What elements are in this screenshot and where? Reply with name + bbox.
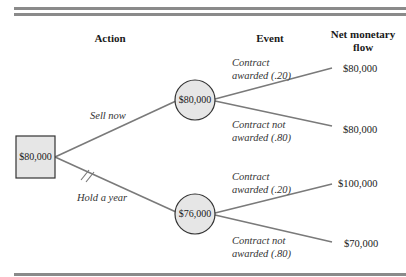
decision-node-value: $80,000	[14, 151, 57, 163]
event-label-3: Contract awarded (.20)	[232, 170, 291, 196]
outcome-1: $80,000	[343, 62, 377, 75]
outcome-2: $80,000	[343, 123, 377, 136]
chance-node-hold-value: $76,000	[175, 208, 215, 220]
decision-tree	[0, 0, 406, 277]
event-label-1: Contract awarded (.20)	[232, 56, 291, 82]
action-label-sell-now: Sell now	[90, 109, 126, 122]
event-label-2: Contract not awarded (.80)	[232, 118, 291, 144]
chance-node-sell-value: $80,000	[175, 94, 215, 106]
action-label-hold-a-year: Hold a year	[77, 191, 127, 204]
event-label-4: Contract not awarded (.80)	[232, 234, 291, 260]
outcome-4: $70,000	[344, 237, 378, 250]
outcome-3: $100,000	[338, 177, 377, 190]
prune-mark-icon	[81, 170, 94, 182]
